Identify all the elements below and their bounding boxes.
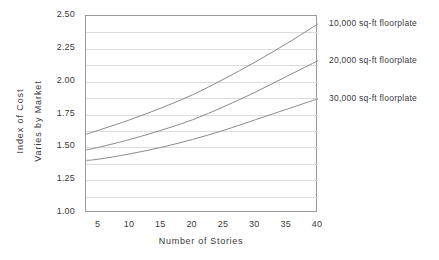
series-label-2: 20,000 sq-ft floorplate (329, 55, 417, 65)
plot-svg (86, 16, 318, 213)
x-axis-tick-label: 40 (302, 219, 332, 229)
y-axis-tick-label: 1.50 (57, 141, 75, 150)
x-axis-tick-label: 15 (145, 219, 175, 229)
y-axis-title: Index of Cost Varies by Market (2, 46, 42, 196)
x-axis-tick-label: 30 (239, 219, 269, 229)
y-axis-tick-label: 2.50 (57, 10, 75, 19)
x-axis-title: Number of Stories (85, 236, 317, 247)
y-axis-tick-label: 1.25 (57, 174, 75, 183)
series-lines (86, 24, 318, 161)
series-label-3: 30,000 sq-ft floorplate (329, 93, 417, 103)
y-axis-title-line-2: Varies by Market (33, 46, 44, 196)
y-axis-tick-label: 2.00 (57, 76, 75, 85)
x-axis-tick-label: 35 (271, 219, 301, 229)
x-axis-tick-label: 5 (83, 219, 113, 229)
gridlines (86, 33, 318, 198)
x-axis-tick-label: 20 (177, 219, 207, 229)
series-label-1: 10,000 sq-ft floorplate (329, 18, 417, 28)
chart-container: 1.001.251.501.752.002.252.50 Index of Co… (0, 0, 439, 260)
y-axis-tick-label: 2.25 (57, 43, 75, 52)
y-axis-tick-label: 1.75 (57, 109, 75, 118)
y-axis-tick-label: 1.00 (57, 207, 75, 216)
plot-area (85, 15, 317, 212)
x-axis-tick-labels: 510152025303540 (0, 219, 439, 233)
x-axis-tick-label: 10 (114, 219, 144, 229)
y-axis-title-line-1: Index of Cost (15, 46, 26, 196)
x-axis-tick-label: 25 (208, 219, 238, 229)
